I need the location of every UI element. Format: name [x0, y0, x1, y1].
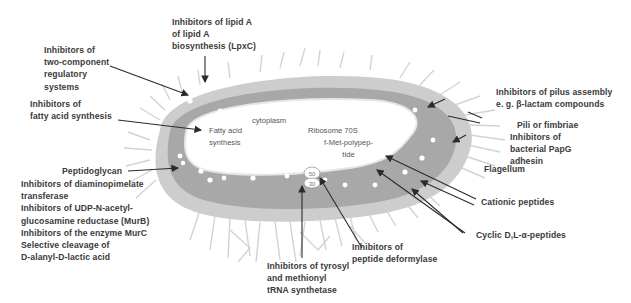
label-lipid-a: Inhibitors of lipid A of lipid A biosynt… — [172, 16, 256, 53]
label-peptidoglycan-targets: Inhibitors of diaminopimelate transferas… — [21, 178, 149, 263]
cytoplasm-label: cytoplasm — [252, 115, 286, 127]
svg-text:30: 30 — [309, 181, 316, 187]
label-cyclic: Cyclic D,L-α-peptides — [476, 229, 566, 241]
bacterial-cell-diagram: 50 30 cytoplasm Fatty acid synthesis Rib… — [0, 0, 631, 303]
label-two-component: Inhibitors of two-component regulatory s… — [44, 44, 109, 93]
label-deformylase: Inhibitors of peptide deformylase — [352, 241, 437, 265]
ribosome-icon: 50 30 — [304, 167, 320, 188]
ribosome-label: Ribosome 70S — [308, 125, 358, 137]
polypeptide-label: f-Met-polypep- tide — [324, 137, 373, 160]
label-pili: Pili or fimbriae — [517, 119, 578, 131]
svg-text:50: 50 — [309, 171, 316, 177]
label-cationic: Cationic peptides — [481, 196, 554, 208]
label-flagellum: Flagellum — [484, 163, 525, 175]
fatty-acid-synthesis-label: Fatty acid synthesis — [209, 125, 242, 148]
label-tyrosyl: Inhibitors of tyrosyl and methionyl tRNA… — [267, 260, 349, 297]
label-peptidoglycan: Peptidoglycan — [62, 165, 122, 177]
label-pilus-assembly: Inhibitors of pilus assembly e. g. β-lac… — [496, 86, 612, 110]
label-fatty-acid: Inhibitors of fatty acid synthesis — [30, 98, 112, 122]
